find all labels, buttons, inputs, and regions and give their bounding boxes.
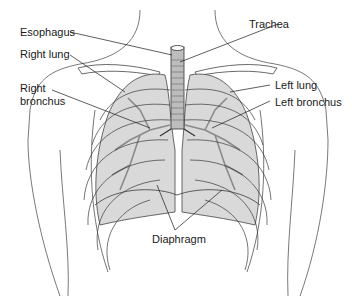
lungs-diagram [0, 0, 355, 296]
label-diaphragm: Diaphragm [152, 233, 206, 245]
label-right-bronchus-line1: Right [20, 82, 46, 94]
label-trachea: Trachea [249, 18, 289, 30]
label-left-bronchus: Left bronchus [275, 96, 342, 108]
label-left-lung: Left lung [275, 79, 317, 91]
label-right-lung: Right lung [20, 48, 70, 60]
label-right-bronchus-line2: bronchus [20, 95, 65, 107]
label-esophagus: Esophagus [20, 26, 75, 38]
